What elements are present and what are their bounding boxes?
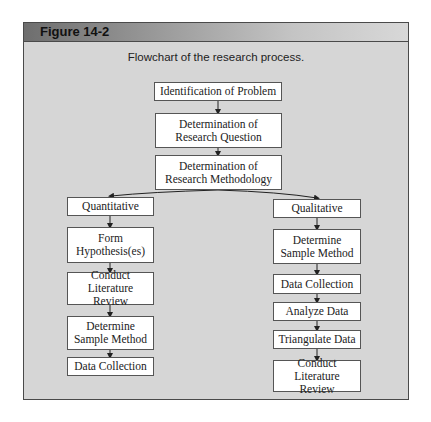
- step-identification-of-problem: Identification of Problem: [154, 82, 282, 101]
- step-research-question: Determination of Research Question: [155, 113, 282, 148]
- step-research-methodology: Determination of Research Methodology: [155, 155, 282, 190]
- qual-step-literature-review: Conduct Literature Review: [273, 360, 361, 392]
- quant-step-literature-review: Conduct Literature Review: [67, 272, 154, 305]
- qual-step-triangulate-data: Triangulate Data: [273, 330, 361, 349]
- qual-step-sample-method: Determine Sample Method: [273, 229, 361, 264]
- branch-quantitative: Quantitative: [67, 197, 154, 216]
- quant-step-data-collection: Data Collection: [67, 357, 154, 376]
- quant-step-form-hypothesis: Form Hypothesis(es): [67, 227, 154, 263]
- quant-step-sample-method: Determine Sample Method: [67, 316, 154, 350]
- qual-step-data-collection: Data Collection: [273, 274, 361, 294]
- branch-qualitative: Qualitative: [273, 199, 361, 218]
- connector-arrows: [0, 0, 431, 422]
- qual-step-analyze-data: Analyze Data: [273, 302, 361, 321]
